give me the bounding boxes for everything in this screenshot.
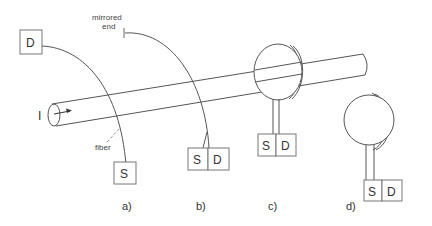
fiber-b-return [203,132,207,148]
tube-right-end [363,54,367,75]
detector-label-c: D [281,139,290,153]
caption-b: b) [196,200,206,212]
coil-c [254,44,302,100]
conductor-tube [48,54,367,126]
caption-d: d) [346,200,356,212]
caption-c: c) [268,200,277,212]
panel-c: S D c) [254,44,303,212]
source-label-c: S [262,139,270,153]
current-label: I [38,109,41,123]
source-label-d: S [368,185,376,199]
fiber-pointer [107,127,121,142]
detector-label-b: D [213,153,222,167]
panel-b: mirrored end S D b) [92,13,229,212]
detector-label-a: D [26,36,35,50]
mirrored-end-label-line2: end [102,22,115,31]
panel-d: S D d) [344,93,402,212]
mirrored-end-label-line1: mirrored [92,13,122,22]
coil-d [344,95,394,145]
source-label-b: S [193,153,201,167]
fiber-label: fiber [95,143,111,152]
current-arrow-icon [54,109,72,115]
caption-a: a) [122,200,132,212]
source-label-a: S [120,167,128,181]
diagram-canvas: I D fiber S a) mirrored end S D b) [0,0,432,226]
detector-label-d: D [387,185,396,199]
tube-left-end [48,104,60,126]
tube-bottom-edge [56,75,365,126]
fiber-a [42,46,126,165]
